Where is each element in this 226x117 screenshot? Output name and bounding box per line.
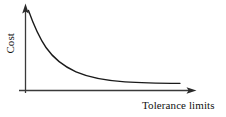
chart-figure: Cost Tolerance limits <box>0 0 226 117</box>
x-axis-label: Tolerance limits <box>142 100 215 111</box>
y-axis-label: Cost <box>5 33 16 54</box>
